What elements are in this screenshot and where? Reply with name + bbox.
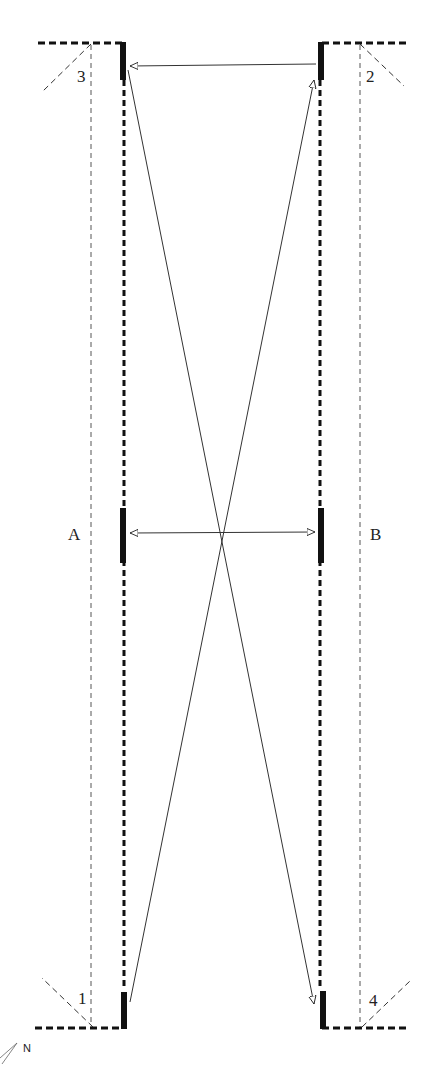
diagonal-1 [128,70,314,1004]
side-label-a: A [68,525,81,544]
marker-top-left [120,42,126,80]
marker-top-right [318,42,324,80]
marker-middle-right [318,508,324,563]
side-label-b: B [370,525,381,544]
corner-label-1: 1 [78,989,87,1008]
horizontal-arrow-top [130,64,316,66]
marker-bottom-right [320,991,326,1029]
marker-middle-left [120,508,126,563]
diagram-canvas: 3 2 1 4 A B N [0,0,436,1082]
horizontal-arrow-middle [130,532,315,533]
corner-label-3: 3 [77,67,86,86]
marker-bottom-left [121,992,127,1029]
north-label: N [23,1042,31,1054]
corner-label-2: 2 [366,67,375,86]
corner-label-4: 4 [369,991,378,1010]
north-arrow-icon [0,1043,17,1064]
